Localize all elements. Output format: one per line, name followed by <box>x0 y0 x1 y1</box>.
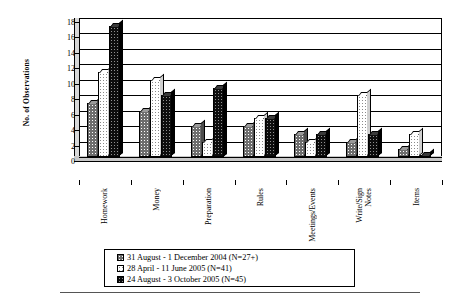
series-2-swatch <box>117 276 124 283</box>
y-tick-label: 6 <box>71 110 75 119</box>
y-tick-label: 18 <box>67 18 75 27</box>
x-axis-label-text: Rules <box>256 188 265 206</box>
x-axis-label-3: Rules <box>254 188 268 206</box>
bar-group <box>346 18 379 157</box>
x-tick-mark <box>442 180 443 185</box>
chart-plot-area: 181614121086420 HomeworkMoneyPreparation… <box>74 18 442 162</box>
x-tick-mark <box>131 180 132 185</box>
x-axis-label-text: Preparation <box>204 188 213 225</box>
bar-group <box>398 18 431 157</box>
bar-series-0[interactable] <box>191 126 202 157</box>
x-tick-mark <box>235 180 236 185</box>
bar-side-face <box>378 127 382 156</box>
bar-series-2[interactable] <box>109 26 120 157</box>
bar-group <box>191 18 224 157</box>
x-tick-mark <box>183 180 184 185</box>
bar-group <box>243 18 276 157</box>
x-axis-label-4: Meetings/Events <box>305 188 319 242</box>
y-tick-label: 14 <box>67 48 75 57</box>
legend-item[interactable]: 31 August - 1 December 2004 (N=27+) <box>117 252 354 263</box>
x-tick-mark <box>390 180 391 185</box>
bar-series-1[interactable] <box>98 72 109 157</box>
bar-series-2[interactable] <box>161 95 172 157</box>
legend-item-label: 24 August - 3 October 2005 (N=45) <box>127 275 246 284</box>
y-tick-mark <box>75 161 80 162</box>
bar-side-face <box>430 148 434 156</box>
bar-series-2[interactable] <box>316 134 327 157</box>
y-axis-title-text: No. of Observations <box>22 59 31 126</box>
bar-series-2[interactable] <box>368 134 379 157</box>
x-tick-mark <box>286 180 287 185</box>
bar-series-1[interactable] <box>305 142 316 157</box>
bar-side-face <box>223 81 227 156</box>
legend-item[interactable]: 24 August - 3 October 2005 (N=45) <box>117 274 354 285</box>
x-tick-mark <box>338 180 339 185</box>
x-axis-label-1: Money <box>150 188 164 211</box>
bar-side-face <box>326 127 330 156</box>
x-axis-label-6: Items <box>409 188 423 206</box>
x-axis-label-text: Homework <box>100 188 109 224</box>
y-tick-label: 16 <box>67 33 75 42</box>
bar-group <box>87 18 120 157</box>
y-tick-label: 2 <box>71 141 75 150</box>
bar-series-0[interactable] <box>243 126 254 157</box>
chart-legend: 31 August - 1 December 2004 (N=27+)28 Ap… <box>104 249 355 287</box>
bar-series-2[interactable] <box>213 88 224 158</box>
bar-side-face <box>171 89 175 156</box>
x-tick-mark <box>79 180 80 185</box>
y-tick-label: 10 <box>67 79 75 88</box>
x-axis-label-5: Write/SignNotes <box>357 188 371 223</box>
bar-series-1[interactable] <box>202 142 213 157</box>
y-tick-label: 0 <box>71 157 75 166</box>
y-tick-label: 4 <box>71 126 75 135</box>
bar-series-container <box>79 18 442 157</box>
x-axis-label-text: Money <box>152 188 161 211</box>
series-0-swatch <box>117 254 124 261</box>
series-1-swatch <box>117 265 124 272</box>
x-axis-label-text: Items <box>412 188 421 206</box>
legend-item-label: 28 April - 11 June 2005 (N=41) <box>127 264 232 273</box>
footer-divider <box>60 292 420 293</box>
y-tick-label: 12 <box>67 64 75 73</box>
x-axis-label-text: Write/SignNotes <box>355 188 373 223</box>
bar-side-face <box>119 19 123 156</box>
x-axis-label-2: Preparation <box>202 188 216 225</box>
x-axis-label-0: Homework <box>98 188 112 224</box>
bar-series-2[interactable] <box>420 155 431 157</box>
bar-group <box>139 18 172 157</box>
bar-series-1[interactable] <box>409 134 420 157</box>
y-axis-title: No. of Observations <box>18 38 34 148</box>
bar-series-1[interactable] <box>254 118 265 157</box>
bar-series-0[interactable] <box>294 134 305 157</box>
bar-side-face <box>275 112 279 156</box>
legend-item[interactable]: 28 April - 11 June 2005 (N=41) <box>117 263 354 274</box>
bar-series-0[interactable] <box>398 149 409 157</box>
bar-series-1[interactable] <box>357 95 368 157</box>
x-axis-label-text: Meetings/Events <box>308 188 317 242</box>
bar-series-0[interactable] <box>139 111 150 157</box>
bar-series-2[interactable] <box>265 118 276 157</box>
bar-side-face <box>419 127 423 156</box>
bar-series-1[interactable] <box>150 80 161 157</box>
y-tick-label: 8 <box>71 95 75 104</box>
bar-series-0[interactable] <box>346 142 357 157</box>
bar-group <box>294 18 327 157</box>
bar-series-0[interactable] <box>87 103 98 157</box>
gridline <box>79 157 442 158</box>
legend-item-label: 31 August - 1 December 2004 (N=27+) <box>127 253 258 262</box>
